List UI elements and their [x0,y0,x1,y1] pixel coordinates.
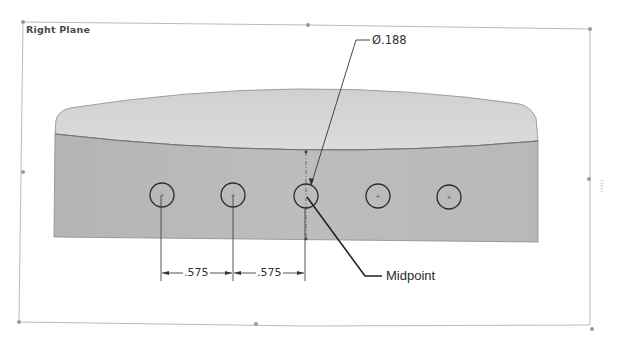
frame-handle-top-left[interactable] [21,20,25,24]
frame-handle-mid-left[interactable] [21,170,25,174]
svg-text:+: + [375,192,380,199]
frame-handle-bottom-right[interactable] [590,327,594,331]
frame-handle-bottom-mid[interactable] [254,322,258,326]
svg-text:+: + [159,191,164,198]
frame-handle-top-mid[interactable] [306,23,310,27]
svg-text:+: + [446,193,451,200]
centerline-endpoint[interactable] [305,151,308,154]
spacing-dimension-2[interactable]: .575 [256,267,283,279]
hole-diameter-dimension[interactable]: Ø.188 [372,33,407,47]
plane-label: Right Plane [26,24,90,35]
spacing-dimension-1[interactable]: .575 [183,267,210,279]
sketch-canvas[interactable]: + + + + [0,0,624,350]
midpoint-callout: Midpoint [386,268,435,283]
frame-handle-mid-right[interactable] [587,177,591,181]
faint-plane-text: Front [599,180,605,193]
frame-handle-top-right[interactable] [588,27,592,31]
part-front-face [54,134,538,242]
frame-handle-bottom-left[interactable] [17,320,21,324]
